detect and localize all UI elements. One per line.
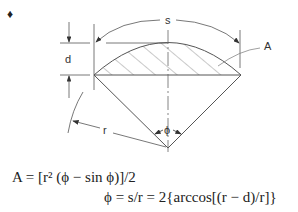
s-dimension-arc-left [96,20,160,42]
phi-arrow-left [155,130,163,134]
area-formula: A = [r² (ϕ − sin ϕ)]/2 [12,169,136,186]
d-label: d [65,53,71,65]
r-leader-to-arc [73,121,100,128]
phi-arrow-right [173,130,181,134]
radius-right [168,75,241,148]
a-label: A [264,40,272,52]
s-dimension-arc-right [176,20,239,43]
radius-left [94,75,168,148]
bullet-icon: ♦ [7,7,13,21]
s-label: s [165,14,171,26]
r-label: r [103,124,107,136]
angle-formula: ϕ = s/r = 2{arccos[(r − d)/r]} [104,189,277,206]
r-leader-to-center [113,133,166,147]
phi-label: ϕ [164,124,170,136]
segment-area [94,43,241,76]
r-arc [68,92,83,133]
